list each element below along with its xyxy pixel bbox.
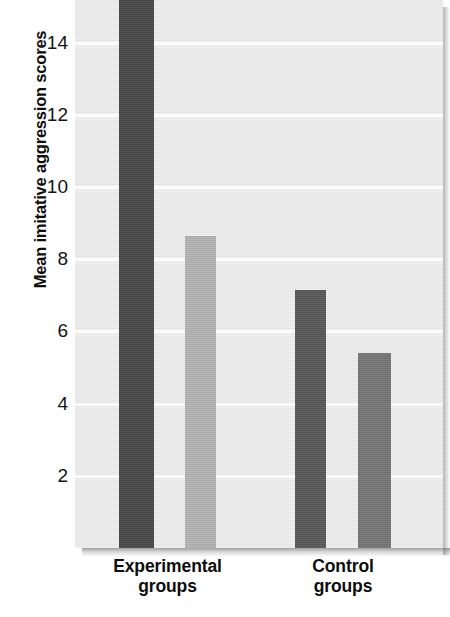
x-category-label-line2: groups bbox=[73, 576, 263, 596]
plot-area bbox=[75, 0, 443, 548]
bar-texture-overlay bbox=[358, 353, 391, 548]
plot-drop-shadow-right bbox=[443, 7, 450, 555]
x-category-label-line2: groups bbox=[248, 576, 438, 596]
y-tick-label-14: 14 bbox=[8, 33, 68, 52]
x-category-label-line1: Experimental bbox=[73, 556, 263, 576]
bar-4 bbox=[358, 353, 391, 548]
bar-3 bbox=[295, 290, 326, 548]
x-category-label-2: Controlgroups bbox=[248, 556, 438, 597]
y-tick-label-12: 12 bbox=[8, 105, 68, 124]
bar-chart: Mean imitative aggression scores 1412108… bbox=[0, 0, 450, 617]
y-tick-label-8: 8 bbox=[8, 249, 68, 268]
x-category-label-1: Experimentalgroups bbox=[73, 556, 263, 597]
x-axis-category-labels: ExperimentalgroupsControlgroups bbox=[75, 556, 450, 616]
y-axis-tick-labels: 1412108642 bbox=[0, 0, 68, 560]
bar-texture-overlay bbox=[185, 236, 216, 548]
y-tick-label-4: 4 bbox=[8, 394, 68, 413]
y-tick-label-2: 2 bbox=[8, 466, 68, 485]
bar-2 bbox=[185, 236, 216, 548]
y-tick-label-6: 6 bbox=[8, 321, 68, 340]
bar-texture-overlay bbox=[119, 0, 154, 548]
bar-1 bbox=[119, 0, 154, 548]
y-tick-label-10: 10 bbox=[8, 177, 68, 196]
x-category-label-line1: Control bbox=[248, 556, 438, 576]
bar-texture-overlay bbox=[295, 290, 326, 548]
